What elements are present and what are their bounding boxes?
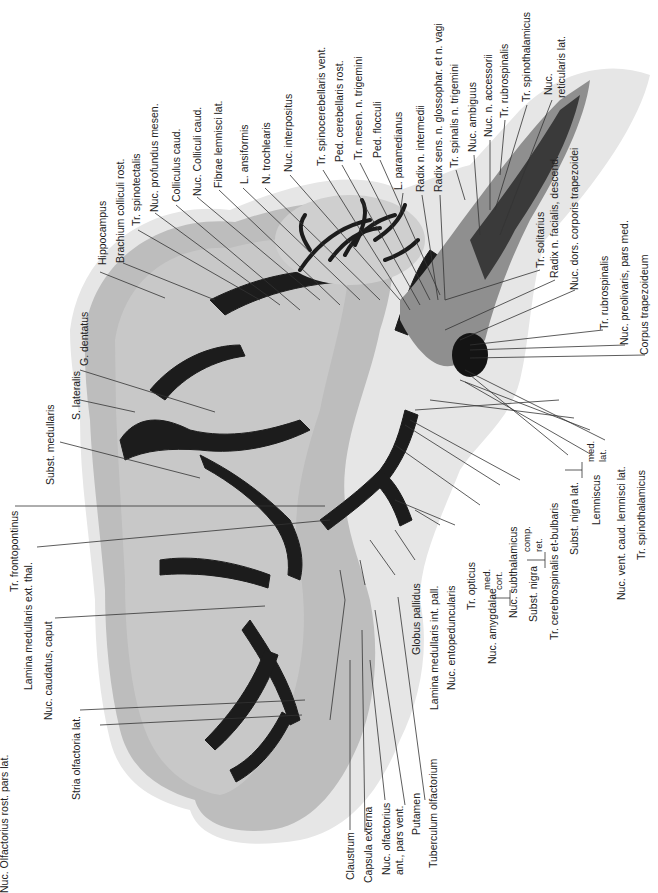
label-nuc-vent-caud-lemnisci-lat: Nuc. vent. caud. lemnisci lat. — [615, 466, 627, 600]
label-lamina-medullaris-ext-thal: Lamina medullaris ext. thal. — [22, 562, 34, 690]
label-nuc-amygdalae-med: med. — [481, 569, 492, 590]
label-brachium-colliculi-rost: Brachium colliculi rost. — [114, 159, 126, 263]
label-nuc-entopeduncularis: Nuc. entopeduncularis — [445, 586, 457, 690]
label-tr-spinocerebellaris-vent: Tr. spinocerebellaris vent. — [315, 47, 327, 166]
label-claustrum: Claustrum — [344, 832, 356, 880]
label-corpus-trapezoideum: Corpus trapezoideum — [638, 254, 650, 355]
label-tr-solitarius: Tr. solitarius — [534, 212, 546, 268]
label-fibrae-lemnisci-lat: Fibrae lemnisci lat. — [212, 100, 224, 188]
label-nuc-olfactorius-ant-line1: Nuc. olfactorius — [380, 803, 392, 875]
label-lemniscus-med: med. — [585, 441, 596, 462]
label-lemniscus: Lemniscus — [590, 475, 602, 525]
label-tr-cerebrospinalis-bulbaris: Tr. cerebrospinalis et-bulbaris — [548, 503, 560, 640]
label-nuc-amygdalae: Nuc. amygdalae — [486, 588, 498, 664]
label-capsula-externa: Capsula externa — [362, 806, 374, 883]
label-nuc-interpositus: Nuc. interpositus — [282, 94, 294, 172]
label-nuc-colliculi-caud: Nuc. Colliculi caud. — [191, 107, 203, 196]
label-nuc-ambiguus: Nuc. ambiguus — [466, 82, 478, 152]
label-nuc-dors-corporis-trapezoidei: Nuc. dors. corporis trapezoidei — [568, 148, 580, 290]
label-subst-nigra-ret: ret. — [533, 538, 544, 552]
label-stria-olfactoria-lat: Stria olfactoria lat. — [70, 716, 82, 800]
corpus-trapezoideum-region — [452, 333, 488, 377]
label-tr-spinothalamicus-top: Tr. spinothalamicus — [520, 12, 532, 102]
label-nuc-caudatus-caput: Nuc. caudatus, caput — [42, 621, 54, 720]
label-l-ansiformis: L. ansiformis — [238, 124, 250, 184]
label-putamen: Putamen — [410, 793, 422, 835]
label-s-lateralis: S. lateralis — [70, 371, 82, 420]
label-tuberculum-olfactorium: Tuberculum olfactorium — [427, 758, 439, 868]
label-ped-cerebellaris-rost: Ped. cerebellaris rost. — [333, 60, 345, 162]
label-lamina-medullaris-int-pall: Lamina medullaris int. pall. — [428, 586, 440, 710]
label-nuc-n-accessorii: Nuc. n. accessorii — [482, 54, 494, 137]
label-subst-medullaris: Subst. medullaris — [44, 404, 56, 485]
label-tr-spinothalamicus-bottom: Tr. spinothalamicus — [635, 470, 647, 560]
label-nuc-profundus-mesen: Nuc. profundus mesen. — [148, 103, 160, 212]
label-nuc-reticularis-lat-line1: Nuc. — [542, 73, 554, 95]
label-ped-flocculi: Ped. flocculi — [371, 101, 383, 158]
label-subst-nigra: Subst. nigra — [527, 566, 539, 622]
label-globus-pallidus: Globus pallidus — [410, 583, 422, 655]
label-nuc-amygdalae-cort: cort. — [493, 572, 504, 590]
label-tr-rubrospinalis-top: Tr. rubrospinalis — [498, 44, 510, 118]
label-n-trochlearis: N. trochlearis — [260, 122, 272, 184]
label-nuc-reticularis-lat-line2: reticularis lat. — [555, 36, 567, 98]
label-lemniscus-lat: lat. — [597, 449, 608, 462]
label-colliculus-caud: Colliculus caud. — [170, 128, 182, 202]
label-tr-opticus: Tr. opticus — [465, 562, 477, 610]
label-nuc-subthalamicus: Nuc. subthalamicus — [507, 526, 519, 618]
label-radix-sens-glossophar-vagi: Radix sens. n. glossophar. et n. vagi — [432, 23, 444, 192]
labels-left: S. lateralis G. dentatus Subst. medullar… — [0, 312, 90, 893]
label-subst-nigra-comp: comp. — [521, 526, 532, 552]
label-radix-n-intermedii: Radix n. intermedii — [414, 105, 426, 192]
label-hippocampus: Hippocampus — [96, 201, 108, 265]
label-tr-spinalis-n-trigemini: Tr. spinalis n. trigemini — [448, 64, 460, 168]
brain-section-figure: Hippocampus Brachium colliculi rost. Tr.… — [0, 0, 658, 893]
label-g-dentatus: G. dentatus — [78, 312, 90, 366]
label-tr-mesen-n-trigemini: Tr. mesen. n. trigemini — [352, 57, 364, 160]
label-nuc-olfactorius-ant-line2: ant., pars vent. — [393, 806, 405, 875]
label-nuc-preolivaris-pars-med: Nuc. preolivaris, pars med. — [618, 220, 630, 345]
label-tr-spinotectalis: Tr. spinotectalis — [130, 153, 142, 226]
label-tr-rubrospinalis-right: Tr. rubrospinalis — [598, 256, 610, 330]
label-radix-n-facialis-descend: Radix n. facialis, descend. — [548, 156, 560, 278]
label-l-paramedianus: L. paramedianus — [392, 112, 404, 190]
label-subst-nigra-lat: Subst. nigra lat. — [568, 482, 580, 555]
label-nuc-olfactorius-rost-pars-lat: Nuc. Olfactorius rost. pars lat. — [0, 755, 10, 893]
label-tr-frontopontinus: Tr. frontopontinus — [8, 511, 20, 592]
